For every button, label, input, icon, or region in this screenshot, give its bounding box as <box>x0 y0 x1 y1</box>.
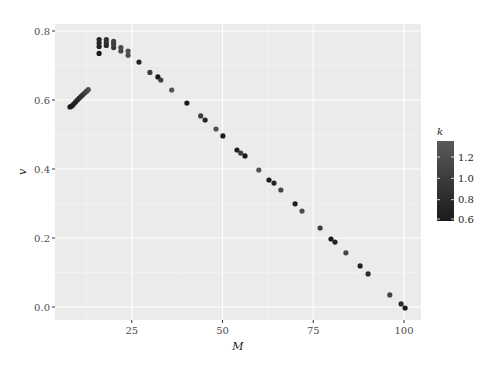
data-point <box>147 70 152 75</box>
data-point <box>266 177 271 182</box>
data-point <box>198 113 203 118</box>
data-point <box>184 101 189 106</box>
data-point <box>169 87 174 92</box>
data-point <box>278 187 283 192</box>
plot-panel <box>55 24 421 320</box>
y-tick-label: 0.6 <box>34 95 50 106</box>
x-axis-title: M <box>231 340 244 353</box>
data-point <box>136 60 141 65</box>
colorbar-label: 0.6 <box>458 214 474 225</box>
data-point <box>238 151 243 156</box>
data-point <box>343 250 348 255</box>
data-point <box>242 153 247 158</box>
data-point <box>332 240 337 245</box>
colorbar-label: 0.8 <box>458 194 474 205</box>
data-point <box>213 126 218 131</box>
x-tick-label: 50 <box>216 325 229 336</box>
data-point <box>104 37 109 42</box>
data-point <box>299 209 304 214</box>
data-point <box>399 301 404 306</box>
data-point <box>97 37 102 42</box>
legend-title: k <box>437 126 443 137</box>
data-point <box>387 292 392 297</box>
colorbar <box>437 141 454 221</box>
data-point <box>358 263 363 268</box>
y-tick-label: 0.0 <box>34 302 50 313</box>
colorbar-label: 1.2 <box>458 152 474 163</box>
x-tick-label: 100 <box>394 325 413 336</box>
data-point <box>220 133 225 138</box>
data-point <box>271 181 276 186</box>
data-point <box>118 45 123 50</box>
colorbar-label: 1.0 <box>458 173 474 184</box>
data-point <box>203 117 208 122</box>
data-point <box>293 201 298 206</box>
y-tick-label: 0.4 <box>34 164 50 175</box>
data-point <box>318 225 323 230</box>
y-axis-title: v <box>16 168 29 175</box>
data-point <box>111 39 116 44</box>
y-tick-label: 0.2 <box>34 233 50 244</box>
data-point <box>366 271 371 276</box>
y-tick-label: 0.8 <box>34 26 50 37</box>
data-point <box>126 48 131 53</box>
x-tick-label: 75 <box>307 325 320 336</box>
scatter-chart: 255075100 0.00.20.40.60.8 M v k 0.60.81.… <box>0 0 491 372</box>
data-point <box>403 305 408 310</box>
data-point <box>256 167 261 172</box>
data-point <box>86 87 91 92</box>
data-point <box>97 51 102 56</box>
x-tick-label: 25 <box>125 325 138 336</box>
data-point <box>158 77 163 82</box>
